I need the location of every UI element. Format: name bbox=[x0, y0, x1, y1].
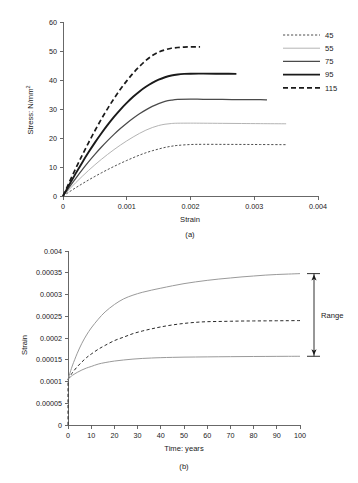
panel-b-curve-middle bbox=[68, 321, 300, 380]
panel-a-y-tick-labels: 0102030405060 bbox=[49, 18, 57, 201]
panel-a-x-tick-label: 0.004 bbox=[309, 202, 327, 211]
range-annotation: Range bbox=[307, 274, 343, 357]
panel-b-y-tick-label: 0.0003 bbox=[40, 290, 62, 299]
panel-b-x-tick-labels: 0102030405060708090100 bbox=[66, 431, 306, 440]
range-annotation-label: Range bbox=[321, 311, 343, 320]
panel-b-x-axis-label: Time: years bbox=[164, 444, 204, 453]
legend-label-95: 95 bbox=[325, 70, 333, 79]
panel-b-x-tick-label: 90 bbox=[273, 431, 281, 440]
panel-b-x-tick-label: 40 bbox=[157, 431, 165, 440]
legend-label-45: 45 bbox=[325, 31, 333, 40]
panel-b-y-tick-label: 0 bbox=[58, 421, 62, 430]
panel-a-x-tick-label: 0.001 bbox=[118, 202, 136, 211]
panel-b-x-tick-label: 80 bbox=[250, 431, 258, 440]
panel-a-x-tick-label: 0 bbox=[61, 202, 65, 211]
panel-a-y-tick-label: 20 bbox=[49, 134, 57, 143]
panel-a-y-tick-label: 0 bbox=[53, 192, 57, 201]
panel-b-x-tick-label: 20 bbox=[110, 431, 118, 440]
panel-a-caption: (a) bbox=[185, 230, 195, 239]
figure-svg: 0102030405060 00.0010.0020.0030.004 Stre… bbox=[0, 0, 358, 483]
panel-a-curves bbox=[63, 47, 286, 196]
panel-b-y-tick-label: 0.0001 bbox=[40, 377, 62, 386]
panel-b-x-tick-label: 100 bbox=[294, 431, 306, 440]
panel-b-x-tick-label: 0 bbox=[66, 431, 70, 440]
panel-a-x-tick-label: 0.002 bbox=[182, 202, 200, 211]
panel-b-x-tick-label: 70 bbox=[226, 431, 234, 440]
panel-b-y-tick-labels: 00.000050.00010.000150.00020.000250.0003… bbox=[36, 247, 62, 430]
panel-b-curve-lower bbox=[68, 356, 300, 379]
figure-container: 0102030405060 00.0010.0020.0030.004 Stre… bbox=[0, 0, 358, 483]
panel-b-x-tick-label: 60 bbox=[203, 431, 211, 440]
panel-b-x-tick-label: 50 bbox=[180, 431, 188, 440]
panel-a-x-axis-label: Strain bbox=[180, 215, 200, 224]
panel-a-legend: 45557595115 bbox=[283, 31, 337, 93]
panel-a-curve-95 bbox=[63, 74, 236, 196]
panel-b-x-tick-label: 10 bbox=[87, 431, 95, 440]
panel-a-x-ticks bbox=[63, 196, 318, 200]
panel-b-y-tick-label: 0.00035 bbox=[36, 268, 62, 277]
panel-b-y-tick-label: 0.00005 bbox=[36, 399, 62, 408]
panel-a-x-tick-label: 0.003 bbox=[245, 202, 263, 211]
panel-a-curve-115 bbox=[63, 47, 200, 196]
panel-a-y-tick-label: 30 bbox=[49, 105, 57, 114]
panel-a-curve-55 bbox=[63, 123, 286, 196]
panel-b-x-tick-label: 30 bbox=[134, 431, 142, 440]
panel-b-y-tick-label: 0.004 bbox=[44, 247, 62, 256]
panel-a-y-axis-label: Stress: N/mm2 bbox=[25, 86, 35, 135]
panel-b-y-tick-label: 0.00025 bbox=[36, 312, 62, 321]
legend-label-75: 75 bbox=[325, 57, 333, 66]
panel-a-y-tick-label: 50 bbox=[49, 47, 57, 56]
legend-label-55: 55 bbox=[325, 44, 333, 53]
panel-a-y-tick-label: 40 bbox=[49, 76, 57, 85]
panel-b-caption: (b) bbox=[179, 462, 189, 471]
panel-b-y-axis-label: Strain bbox=[20, 335, 29, 355]
panel-a-y-tick-label: 60 bbox=[49, 18, 57, 27]
panel-b-x-ticks bbox=[68, 425, 300, 429]
legend-label-115: 115 bbox=[325, 84, 337, 93]
panel-a-y-tick-label: 10 bbox=[49, 163, 57, 172]
panel-a-x-tick-labels: 00.0010.0020.0030.004 bbox=[61, 202, 327, 211]
panel-a: 0102030405060 00.0010.0020.0030.004 Stre… bbox=[25, 18, 337, 239]
panel-b-curves bbox=[68, 274, 300, 425]
panel-b-y-tick-label: 0.0002 bbox=[40, 334, 62, 343]
panel-b: 00.000050.00010.000150.00020.000250.0003… bbox=[20, 247, 343, 471]
panel-b-y-tick-label: 0.00015 bbox=[36, 355, 62, 364]
panel-b-annotations: Range bbox=[307, 274, 343, 357]
